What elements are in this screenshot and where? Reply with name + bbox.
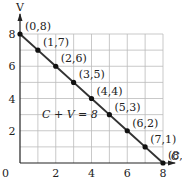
point-label: (3,5) (79, 68, 105, 81)
y-tick-label: 8 (9, 28, 16, 41)
x-tick-label: 6 (124, 167, 131, 180)
point-labels: (0,8)(1,7)(2,6)(3,5)(4,4)(5,3)(6,2)(7,1)… (25, 20, 182, 162)
x-tick-label: 4 (88, 167, 95, 180)
tick-labels: 024682468 (2, 28, 167, 180)
data-point (89, 96, 94, 101)
equation-annotation: C + V = 8 (42, 108, 98, 121)
x-tick-label: 8 (160, 167, 167, 180)
data-point (107, 112, 112, 117)
y-tick-label: 4 (9, 93, 16, 106)
y-axis-arrow-icon (18, 13, 23, 21)
data-point (125, 128, 130, 133)
line-chart: 024682468 (0,8)(1,7)(2,6)(3,5)(4,4)(5,3)… (0, 0, 182, 181)
y-tick-label: 6 (9, 60, 16, 73)
point-label: (4,4) (97, 85, 123, 98)
y-tick-label: 2 (9, 125, 16, 138)
point-label: (0,8) (25, 20, 51, 33)
x-tick-label: 2 (52, 167, 59, 180)
x-axis-label: C (171, 150, 180, 163)
data-point (17, 31, 22, 36)
point-label: (1,7) (43, 36, 69, 49)
data-point (71, 80, 76, 85)
data-point (143, 144, 148, 149)
point-label: (6,2) (132, 117, 158, 130)
data-point (160, 160, 165, 165)
data-point (35, 48, 40, 53)
x-tick-label: 0 (2, 167, 9, 180)
point-label: (7,1) (150, 133, 176, 146)
y-axis-label: V (15, 1, 25, 14)
data-point (53, 64, 58, 69)
point-label: (2,6) (61, 52, 87, 65)
point-label: (5,3) (114, 101, 140, 114)
